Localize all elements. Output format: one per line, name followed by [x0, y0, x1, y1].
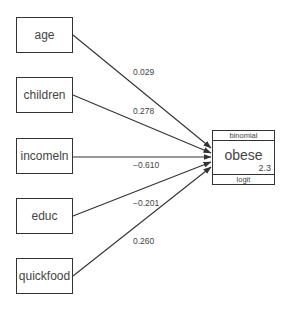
node-incomeln[interactable]: incomeln: [16, 138, 73, 174]
node-obese[interactable]: binomial obese 2.3 logit: [212, 130, 275, 185]
node-label: age: [34, 28, 54, 42]
edge-quickfood-obese: [73, 167, 211, 276]
family-label: binomial: [213, 131, 274, 141]
node-label: children: [23, 88, 65, 102]
edge-children-obese: [73, 95, 211, 153]
node-educ[interactable]: educ: [16, 198, 73, 234]
constant-value: 2.3: [258, 163, 271, 173]
coef-age: 0.029: [133, 67, 154, 77]
node-label: quickfood: [19, 269, 70, 283]
coef-educ: −0.201: [133, 198, 159, 208]
node-quickfood[interactable]: quickfood: [16, 258, 73, 294]
node-children[interactable]: children: [16, 77, 73, 113]
coef-incomeln: −0.610: [133, 160, 159, 170]
edge-age-obese: [73, 35, 211, 148]
outcome-label: obese: [213, 147, 274, 163]
node-label: educ: [31, 209, 57, 223]
coef-children: 0.278: [133, 106, 154, 116]
coef-quickfood: 0.260: [133, 236, 154, 246]
node-age[interactable]: age: [16, 17, 73, 53]
link-label: logit: [213, 174, 274, 184]
node-label: incomeln: [20, 149, 68, 163]
